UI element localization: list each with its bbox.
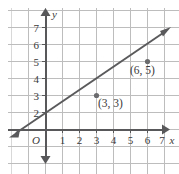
x-tick-labels: 1 2 3 4 5 6 7 [60, 134, 166, 146]
x-tick-label-7: 7 [159, 134, 165, 146]
x-tick-label-6: 6 [145, 134, 151, 146]
coordinate-plane-figure: 7 6 5 4 3 2 1 2 3 4 5 6 7 O y x (3, 3) (… [0, 0, 179, 174]
y-axis-arrowhead-down-icon [41, 156, 51, 164]
graph-canvas: 7 6 5 4 3 2 1 2 3 4 5 6 7 O y x (3, 3) (… [0, 0, 179, 174]
x-axis-arrowhead-icon [162, 125, 170, 135]
origin-label: O [32, 134, 40, 146]
y-tick-label-2: 2 [34, 107, 40, 119]
x-axis-label: x [169, 134, 175, 146]
y-tick-label-4: 4 [34, 73, 40, 85]
y-axis [41, 8, 51, 164]
y-axis-arrowhead-up-icon [41, 8, 51, 16]
y-tick-label-7: 7 [34, 22, 40, 34]
x-axis [8, 125, 170, 135]
y-tick-labels: 7 6 5 4 3 2 [34, 22, 40, 119]
x-tick-label-1: 1 [60, 134, 66, 146]
y-tick-label-6: 6 [34, 39, 40, 51]
y-tick-label-3: 3 [34, 90, 40, 102]
y-axis-label: y [51, 8, 57, 20]
y-tick-label-5: 5 [34, 56, 40, 68]
point-label-3-3: (3, 3) [98, 97, 123, 110]
x-tick-label-2: 2 [77, 134, 83, 146]
x-tick-label-5: 5 [128, 134, 134, 146]
point-label-6-5: (6, 5) [130, 64, 155, 77]
x-tick-label-4: 4 [111, 134, 117, 146]
x-tick-label-3: 3 [94, 134, 100, 146]
